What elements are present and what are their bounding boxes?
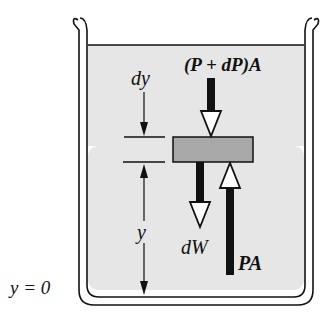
label-origin: y = 0: [10, 278, 50, 297]
label-PA: PA: [238, 253, 262, 273]
diagram-canvas: [0, 0, 334, 317]
bottom-force-shaft: [226, 188, 234, 275]
label-top-force: (P + dP)A: [184, 55, 262, 74]
label-dW: dW: [181, 237, 208, 257]
fluid-element-slab: [173, 137, 253, 162]
weight-shaft: [196, 162, 204, 202]
label-y: y: [137, 221, 146, 243]
label-dy: dy: [131, 68, 150, 88]
top-force-shaft: [207, 78, 215, 111]
